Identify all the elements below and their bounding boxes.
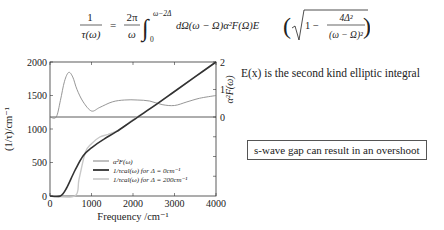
eq-frac-num: 4Δ²	[339, 13, 352, 23]
y-axis-label: (1/τ)/cm⁻¹	[3, 107, 15, 151]
eq-equals: =	[110, 19, 116, 31]
overshoot-callout: s-wave gap can result in an overshoot	[247, 140, 427, 160]
eq-sqrt-one: 1 −	[305, 20, 319, 31]
y-right-tick-label: 2	[220, 57, 225, 68]
legend: α²F(ω)1/τcal(ω) for Δ = 0cm⁻¹1/τcal(ω) f…	[93, 158, 187, 184]
y-tick-label: 1500	[27, 90, 47, 101]
eq-paren-open: (	[283, 13, 291, 39]
legend-entry: 1/τcal(ω) for Δ = 200cm⁻¹	[113, 176, 187, 184]
eq-lhs-num: 1	[87, 11, 93, 23]
legend-entry: α²F(ω)	[113, 158, 133, 166]
eq-frac-den: (ω − Ω)²	[329, 30, 363, 41]
x-tick-label: 3000	[165, 198, 185, 209]
axes-layer: 010002000300040000500100015002000012Freq…	[3, 57, 236, 223]
elliptic-integral-note: E(x) is the second kind elliptic integra…	[241, 67, 420, 79]
x-tick-label: 0	[48, 198, 53, 209]
eq-int-lower: 0	[150, 35, 154, 44]
y-tick-label: 0	[42, 191, 47, 202]
eq-int-upper: ω−2Δ	[153, 9, 172, 18]
x-axis-label: Frequency /cm⁻¹	[97, 211, 168, 222]
y-tick-label: 2000	[27, 57, 47, 68]
y-right-axis-label: α²F(ω)	[224, 75, 236, 104]
x-tick-label: 1000	[82, 198, 102, 209]
eq-integrand: dΩ(ω − Ω)α²F(Ω)E	[176, 20, 260, 32]
y-right-tick-label: 0	[220, 112, 225, 123]
legend-entry: 1/τcal(ω) for Δ = 0cm⁻¹	[113, 167, 180, 175]
y-tick-label: 1000	[27, 124, 47, 135]
x-tick-label: 4000	[206, 198, 226, 209]
eq-coef-den: ω	[128, 28, 136, 40]
eq-paren-close: )	[363, 13, 370, 39]
eq-lhs-den: τ(ω)	[81, 28, 100, 41]
scattering-rate-equation: 1 τ(ω) = 2π ω ∫ ω−2Δ 0 dΩ(ω − Ω)α²F(Ω)E …	[80, 6, 370, 46]
eq-coef-num: 2π	[126, 11, 138, 23]
x-tick-label: 2000	[123, 198, 143, 209]
eq-integral-sign: ∫	[140, 15, 150, 43]
y-tick-label: 500	[32, 157, 47, 168]
